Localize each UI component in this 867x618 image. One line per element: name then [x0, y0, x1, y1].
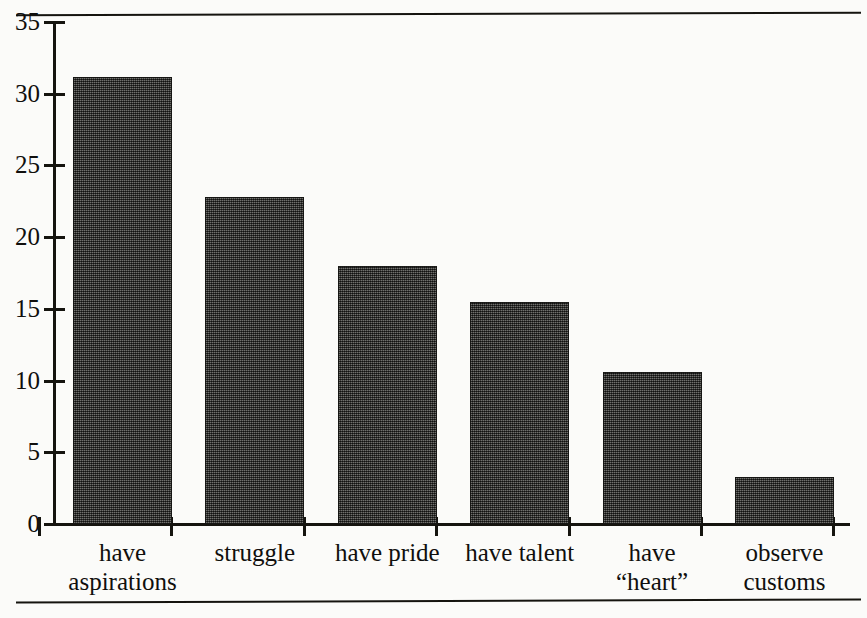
bar [603, 372, 702, 524]
bar [205, 197, 304, 524]
y-axis-tick-label: 25 [0, 152, 40, 177]
bar-chart-plot: 05101520253035 have aspirationsstruggleh… [0, 0, 867, 618]
x-axis-tick [38, 517, 41, 536]
y-axis-tick [44, 451, 65, 454]
y-axis-tick-label: 30 [0, 81, 40, 106]
x-axis-category-label: have talent [446, 538, 594, 567]
bar [735, 477, 834, 524]
y-axis-tick [44, 308, 65, 311]
y-axis-tick [44, 236, 65, 239]
y-axis-tick-label: 0 [0, 511, 40, 536]
x-axis-category-label: have aspirations [48, 538, 196, 596]
x-axis-category-label: observe customs [710, 538, 858, 596]
y-axis-tick [44, 93, 65, 96]
y-axis-tick-label: 5 [0, 439, 40, 464]
y-axis-tick-label: 20 [0, 224, 40, 249]
y-axis-tick [44, 164, 65, 167]
x-axis-category-label: struggle [181, 538, 329, 567]
bar [470, 302, 569, 524]
bar [338, 266, 437, 524]
bar [73, 77, 172, 524]
y-axis-tick [44, 523, 65, 526]
y-axis-tick [44, 21, 65, 24]
x-axis-category-label: have “heart” [578, 538, 726, 596]
x-axis-category-label: have pride [313, 538, 461, 567]
y-axis-tick-label: 35 [0, 9, 40, 34]
y-axis-tick [44, 380, 65, 383]
y-axis-tick-label: 10 [0, 368, 40, 393]
figure-page: 05101520253035 have aspirationsstruggleh… [0, 0, 867, 618]
y-axis-tick-label: 15 [0, 296, 40, 321]
